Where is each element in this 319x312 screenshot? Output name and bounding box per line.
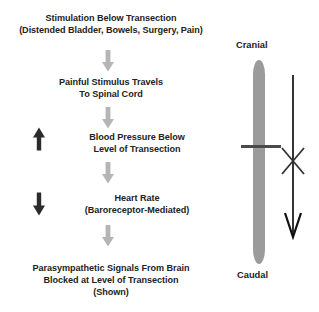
down-arrow-icon <box>101 107 115 133</box>
flow-step-painful-stimulus-line-1: Painful Stimulus Travels <box>0 76 222 88</box>
caudal-label: Caudal <box>237 270 268 280</box>
flow-step-stimulation: Stimulation Below Transection (Distended… <box>0 12 222 36</box>
flow-step-heart-rate-line-1: Heart Rate <box>52 192 222 204</box>
flow-step-blood-pressure-line-1: Blood Pressure Below <box>52 131 222 143</box>
spinal-cord-shape <box>253 60 265 264</box>
down-arrow-icon <box>101 50 115 76</box>
flow-step-parasympathetic-line-1: Parasympathetic Signals From Brain <box>0 262 222 274</box>
flow-step-stimulation-line-1: Stimulation Below Transection <box>0 12 222 24</box>
flow-step-parasympathetic: Parasympathetic Signals From Brain Block… <box>0 262 222 299</box>
flow-step-painful-stimulus: Painful Stimulus Travels To Spinal Cord <box>0 76 222 100</box>
cranial-label: Cranial <box>236 40 268 50</box>
blood-pressure-up-arrow-icon <box>32 127 46 155</box>
flow-step-parasympathetic-line-2: Blocked at Level of Transection <box>0 274 222 286</box>
flow-step-heart-rate-line-2: (Baroreceptor-Mediated) <box>52 204 222 216</box>
diagram-canvas: Stimulation Below Transection (Distended… <box>0 0 319 312</box>
flow-step-blood-pressure: Blood Pressure Below Level of Transectio… <box>52 131 222 155</box>
x-block-icon <box>280 146 306 180</box>
flow-step-stimulation-line-2: (Distended Bladder, Bowels, Surgery, Pai… <box>0 24 222 36</box>
down-arrow-icon <box>101 162 115 188</box>
transection-line <box>241 145 281 148</box>
flow-step-blood-pressure-line-2: Level of Transection <box>52 143 222 155</box>
down-arrow-icon <box>101 225 115 251</box>
flow-step-parasympathetic-line-3: (Shown) <box>0 286 222 298</box>
flow-step-heart-rate: Heart Rate (Baroreceptor-Mediated) <box>52 192 222 216</box>
heart-rate-down-arrow-icon <box>32 192 46 220</box>
flow-step-painful-stimulus-line-2: To Spinal Cord <box>0 88 222 100</box>
